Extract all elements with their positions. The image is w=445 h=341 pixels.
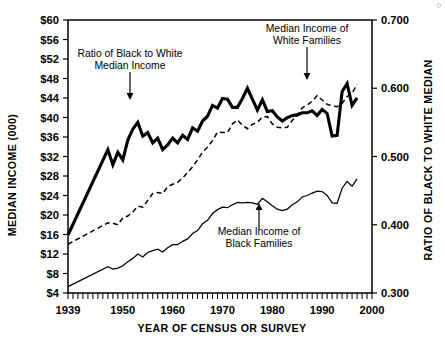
annotation-arrow-head: [304, 73, 311, 80]
white-annotation: Median Income ofWhite Families: [266, 23, 349, 80]
x-tick-label: 1970: [210, 304, 235, 316]
x-axis-title: YEAR OF CENSUS OR SURVEY: [138, 322, 307, 334]
ratio-annotation-text: Ratio of Black to WhiteMedian Income: [77, 48, 182, 71]
annotation-arrow-head: [127, 93, 134, 100]
annotation-line: White Families: [273, 35, 341, 46]
x-tick-label: 1960: [160, 304, 185, 316]
y-tick-label: $12: [40, 248, 59, 260]
y-tick-label: $40: [40, 112, 59, 124]
annotation-line: Median Income of: [266, 23, 349, 34]
x-tick-label: 1939: [56, 304, 81, 316]
y2-axis-title: RATIO OF BLACK TO WHITE MEDIAN: [422, 59, 434, 260]
x-tick-label: 1990: [310, 304, 335, 316]
y-tick-label: $48: [40, 73, 59, 85]
y-tick-label: $20: [40, 209, 59, 221]
y2-tick-label: 0.600: [381, 82, 409, 94]
white-annotation-text: Median Income ofWhite Families: [266, 23, 349, 46]
series-line: Ratio of Black to White Median Income: [68, 83, 357, 235]
ratio-annotation: Ratio of Black to WhiteMedian Income: [77, 48, 182, 100]
y-tick-label: $8: [47, 268, 59, 280]
series-line: Median Income of Black Families: [68, 179, 357, 287]
black-annotation: Median Income ofBlack Families: [218, 203, 301, 249]
y-tick-label: $36: [40, 131, 59, 143]
y2-tick-label: 0.400: [381, 219, 409, 231]
annotation-line: Median Income: [94, 60, 165, 71]
y-tick-label: $52: [40, 53, 59, 65]
black-annotation-text: Median Income ofBlack Families: [218, 226, 301, 249]
y2-tick-label: 0.300: [381, 287, 409, 299]
x-tick-label: 1980: [260, 304, 285, 316]
y-tick-label: $60: [40, 14, 59, 26]
y-tick-label: $4: [47, 287, 60, 299]
annotation-line: Ratio of Black to White: [77, 48, 182, 59]
x-tick-label: 2000: [360, 304, 385, 316]
y2-tick-label: 0.500: [381, 151, 409, 163]
y-axis-title: MEDIAN INCOME (000): [6, 114, 18, 236]
annotation-layer: Ratio of Black to WhiteMedian IncomeMedi…: [77, 23, 348, 249]
y-tick-label: $44: [40, 92, 59, 104]
series-layer: Ratio of Black to White Median IncomeMed…: [68, 83, 357, 286]
x-tick-label: 1950: [110, 304, 135, 316]
chart-figure: 0 $4$8$12$16$20$24$28$32$36$40$44$48$52$…: [0, 0, 445, 341]
y-tick-label: $32: [40, 151, 59, 163]
y-tick-label: $28: [40, 170, 59, 182]
page-corner-mark: 0: [437, 1, 441, 10]
annotation-line: Black Families: [226, 238, 293, 249]
income-ratio-line-chart: $4$8$12$16$20$24$28$32$36$40$44$48$52$56…: [0, 0, 445, 341]
y-tick-label: $24: [40, 190, 59, 202]
y-tick-label: $56: [40, 34, 59, 46]
y2-tick-label: 0.700: [381, 14, 409, 26]
y-tick-label: $16: [40, 229, 59, 241]
